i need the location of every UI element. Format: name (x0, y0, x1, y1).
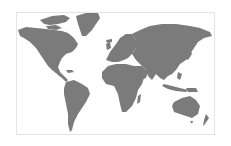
region-new-guinea (186, 88, 198, 92)
world-map (0, 0, 231, 146)
region-iceland (106, 39, 112, 43)
region-greenland (76, 13, 100, 36)
region-north-america (18, 27, 78, 73)
region-arctic-islands-2 (46, 25, 62, 30)
region-arctic-islands (40, 15, 70, 25)
region-indonesia (162, 84, 188, 92)
region-tasmania (190, 121, 193, 124)
region-central-america (54, 68, 68, 82)
region-south-america (64, 80, 90, 132)
region-uk (106, 42, 111, 50)
region-australia (172, 96, 200, 118)
region-caribbean (66, 70, 74, 73)
region-new-zealand (203, 114, 209, 126)
region-philippines (177, 72, 182, 80)
region-madagascar (137, 94, 141, 104)
